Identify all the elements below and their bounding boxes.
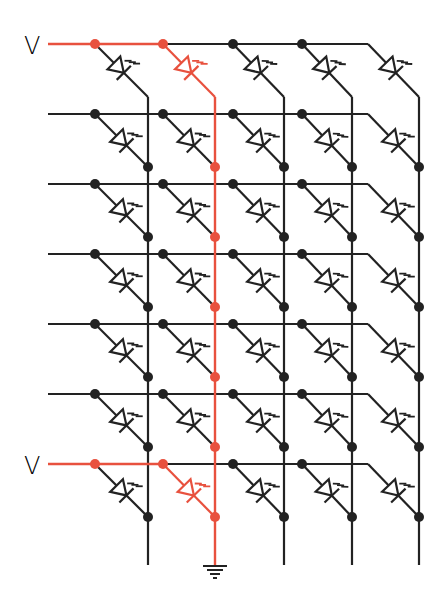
emission-ray [127,270,134,277]
led-icon-active [177,473,210,506]
emission-ray [269,202,276,209]
emission-ray [341,203,348,210]
emission-ray [341,413,348,420]
led-icon [177,403,210,436]
led-emission-icon [333,267,348,283]
junction-dot [297,179,307,189]
junction-dot [297,39,307,49]
junction-dot [347,302,357,312]
emission-ray [269,412,276,419]
junction-dot [297,319,307,329]
emission-ray [129,59,136,66]
emission-ray [269,342,276,349]
emission-ray [127,480,134,487]
junction-dot [90,179,100,189]
led-icon [109,263,142,296]
junction-dot [90,389,100,399]
junction-dot [297,109,307,119]
led-emission-icon [195,267,211,283]
emission-ray [408,133,415,140]
emission-ray [127,200,134,207]
led-emission-icon [195,127,211,143]
led-icon [381,403,414,436]
emission-ray [262,57,269,64]
led-emission-icon [195,407,211,423]
junction-dot [228,389,238,399]
led-emission-icon [264,337,279,353]
junction-dot [143,442,153,452]
led-emission-icon [127,407,143,423]
led-emission-icon [399,127,414,143]
junction-dot [279,372,289,382]
led-emission-icon [264,127,279,143]
led-icon [381,263,414,296]
led-emission-icon [192,55,208,71]
emission-ray [264,410,271,417]
led-icon [381,333,414,366]
junction-dot [90,109,100,119]
junction-dot [228,109,238,119]
led-emission-icon [330,55,345,71]
emission-ray [264,130,271,137]
led-icon [315,333,348,366]
emission-ray [136,413,143,420]
voltage-label-top: V [24,32,40,60]
emission-ray [337,412,344,419]
junction-dot [143,372,153,382]
junction-dot [228,249,238,259]
emission-ray [399,340,406,347]
emission-ray [273,203,280,210]
junction-dot [279,512,289,522]
wires [48,44,419,565]
led-icon [381,193,414,226]
junction-dot [90,319,100,329]
emission-ray [131,341,138,348]
emission-ray [397,57,404,64]
led-icon [177,333,210,366]
emission-ray [199,481,206,488]
emission-ray [266,59,273,66]
junction-dot [414,232,424,242]
led-icon [246,193,279,226]
emission-ray [270,60,277,67]
junction-dot [158,389,168,399]
emission-ray [273,133,280,140]
junction-dot [414,442,424,452]
emission-ray [127,340,134,347]
led-emission-icon [195,477,211,493]
junction-dot [90,39,100,49]
emission-ray [273,483,280,490]
emission-ray [127,410,134,417]
emission-ray [404,132,411,139]
junction-dot [210,512,220,522]
emission-ray [203,483,210,490]
emission-ray [404,342,411,349]
emission-ray [337,342,344,349]
emission-ray [131,481,138,488]
emission-ray [399,410,406,417]
junction-dot [90,459,100,469]
emission-ray [273,273,280,280]
emission-ray [333,270,340,277]
emission-ray [203,203,210,210]
junction-dot [228,179,238,189]
junction-dot [228,459,238,469]
led-icon [246,473,279,506]
led-emission-icon [127,267,143,283]
junction-dot [279,442,289,452]
led-emission-icon [333,407,348,423]
led-emission-icon [264,197,279,213]
led-emission-icon [399,407,414,423]
emission-ray [131,131,138,138]
led-emission-icon [127,337,143,353]
junction-dot [158,319,168,329]
emission-ray [269,132,276,139]
emission-ray [192,57,199,64]
led-matrix-diagram: V V [0,0,448,611]
emission-ray [333,200,340,207]
emission-ray [399,200,406,207]
junction-dot [210,442,220,452]
junction-dot [414,162,424,172]
junction-dot [158,179,168,189]
led-icon [312,50,345,83]
